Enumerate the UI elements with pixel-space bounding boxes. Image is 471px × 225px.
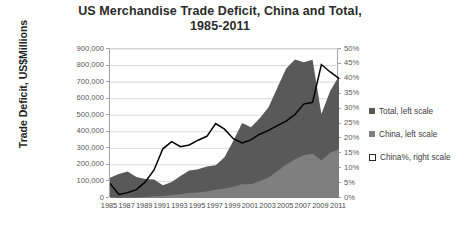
legend-swatch-square-icon (369, 108, 375, 114)
legend-item-china-percent[interactable]: China%, right scale (369, 149, 469, 165)
y-tick-label-left: 500,000 (52, 110, 104, 119)
y-tick-label-right: 5% (344, 178, 378, 187)
legend-label-total: Total, left scale (379, 107, 433, 116)
legend-label-china-percent: China%, right scale (380, 153, 451, 162)
y-tick-label-right: 35% (344, 88, 378, 97)
chart-container: US Merchandise Trade Deficit, China and … (0, 0, 471, 225)
x-tick-label: 2011 (325, 201, 351, 210)
y-tick-label-left: 300,000 (52, 143, 104, 152)
y-tick-label-right: 50% (344, 44, 378, 53)
chart-title: US Merchandise Trade Deficit, China and … (55, 4, 385, 34)
y-tick-label-right: 40% (344, 73, 378, 82)
legend-item-total[interactable]: Total, left scale (369, 103, 469, 119)
y-axis-title: Trade Deficit, US$Millions (17, 9, 29, 159)
y-tick-label-left: 700,000 (52, 77, 104, 86)
y-tick-label-left: 600,000 (52, 93, 104, 102)
chart-legend: Total, left scale China, left scale Chin… (369, 103, 469, 172)
chart-title-line-2: 1985-2011 (55, 19, 385, 34)
legend-label-china: China, left scale (379, 130, 437, 139)
chart-plot-svg (110, 49, 339, 198)
y-tick-label-left: 100,000 (52, 176, 104, 185)
y-tick-label-left: 200,000 (52, 159, 104, 168)
y-tick-label-left: 400,000 (52, 126, 104, 135)
y-tick-label-right: 45% (344, 58, 378, 67)
legend-swatch-outline-square-icon (369, 154, 376, 161)
legend-item-china[interactable]: China, left scale (369, 126, 469, 142)
y-tick-label-left: 800,000 (52, 60, 104, 69)
y-tick-label-left: 900,000 (52, 44, 104, 53)
chart-title-line-1: US Merchandise Trade Deficit, China and … (78, 4, 362, 18)
y-tick-mark-left (106, 197, 109, 198)
legend-swatch-square-icon (369, 131, 375, 137)
plot-area (109, 48, 338, 197)
